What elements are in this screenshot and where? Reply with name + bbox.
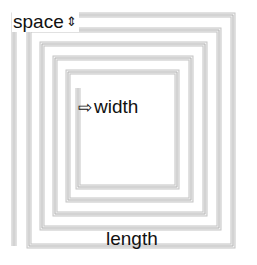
length-label: length bbox=[106, 229, 158, 248]
space-label: space⇕ bbox=[12, 12, 79, 32]
spiral-line-core bbox=[14, 15, 233, 246]
square-spiral-diagram bbox=[0, 0, 257, 265]
up-down-arrow-icon: ⇕ bbox=[66, 15, 77, 28]
spiral-band bbox=[14, 15, 233, 246]
spiral-line-gap bbox=[14, 15, 233, 246]
width-label-text: width bbox=[94, 96, 138, 117]
space-label-text: space bbox=[13, 11, 64, 32]
right-arrow-outline-icon: ⇨ bbox=[78, 99, 92, 116]
width-label: ⇨width bbox=[78, 97, 138, 116]
spiral-line-outer bbox=[14, 15, 233, 246]
length-label-text: length bbox=[106, 228, 158, 249]
